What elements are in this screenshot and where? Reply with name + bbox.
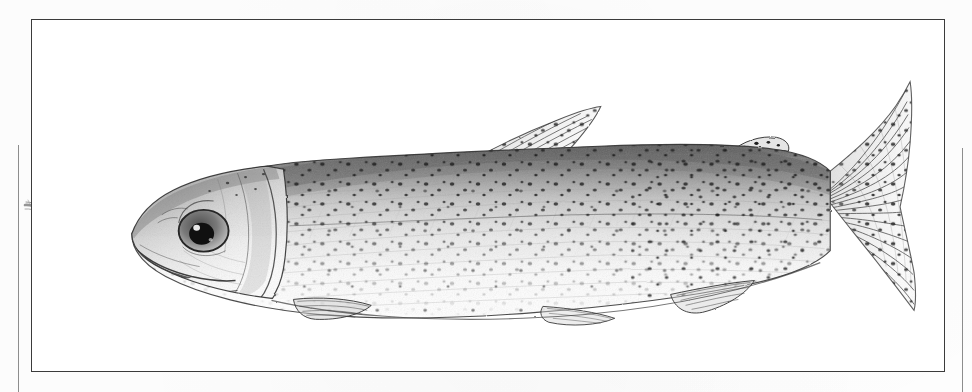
gutter-rule-left [18, 145, 19, 392]
trout-illustration [32, 20, 944, 371]
eye-pupil [189, 223, 214, 245]
plate-frame [31, 19, 945, 372]
illustration-page [0, 0, 972, 392]
trout-drawing-svg [32, 20, 944, 371]
gutter-rule-right [962, 148, 963, 392]
